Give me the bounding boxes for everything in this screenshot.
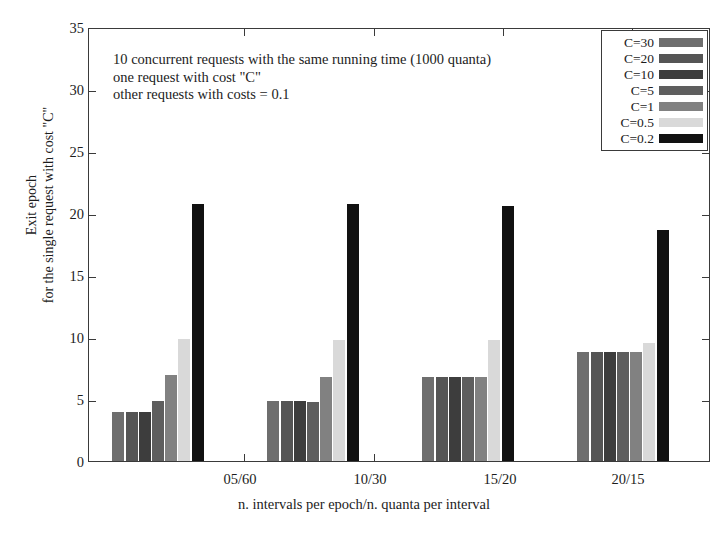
x-tick-label-2: 15/20 [460, 472, 540, 487]
legend-item-C0-2: C=0.2 [604, 131, 703, 146]
bar-05-60-C0-2 [192, 204, 205, 461]
x-tick-label-3: 20/15 [588, 472, 668, 487]
bar-15-20-C0-2 [502, 206, 515, 461]
legend-item-C1: C=1 [604, 99, 703, 114]
x-tick-label-1: 10/30 [330, 472, 410, 487]
bar-05-60-C30 [112, 412, 125, 461]
bar-10-30-C5 [307, 402, 320, 461]
bar-20-15-C1 [630, 352, 643, 461]
y-axis-title: Exit epoch for the single request with c… [23, 45, 57, 365]
plot-area: 10 concurrent requests with the same run… [88, 28, 710, 462]
bar-20-15-C10 [604, 352, 617, 461]
legend-label: C=1 [631, 100, 654, 114]
bar-15-20-C5 [462, 377, 475, 461]
legend-label: C=0.2 [621, 132, 655, 146]
x-tick-label-0: 05/60 [200, 472, 280, 487]
legend-label: C=30 [624, 36, 654, 50]
bar-05-60-C1 [165, 375, 178, 461]
legend-item-C30: C=30 [604, 35, 703, 50]
legend-item-C10: C=10 [604, 67, 703, 82]
legend-swatch [659, 102, 703, 111]
y-axis-title-line1: Exit epoch [23, 45, 40, 365]
bar-chart-figure: 0 5 10 15 20 25 30 35 Exit epoch for the… [0, 0, 728, 538]
legend-swatch [659, 134, 703, 143]
y-tick-label-0: 0 [44, 455, 84, 470]
legend-swatch [659, 54, 703, 63]
bar-10-30-C0-5 [333, 340, 346, 461]
legend-item-C20: C=20 [604, 51, 703, 66]
legend-swatch [659, 38, 703, 47]
bar-10-30-C0-2 [347, 204, 360, 461]
bar-05-60-C5 [152, 401, 165, 461]
bar-05-60-C20 [126, 412, 139, 461]
legend-label: C=0.5 [621, 116, 655, 130]
bar-15-20-C30 [422, 377, 435, 461]
y-tick-label-35: 35 [44, 21, 84, 36]
legend-swatch [659, 86, 703, 95]
legend-label: C=5 [631, 84, 654, 98]
bar-20-15-C30 [577, 352, 590, 461]
legend-item-C0-5: C=0.5 [604, 115, 703, 130]
bar-20-15-C0-5 [643, 343, 656, 461]
bar-05-60-C0-5 [178, 339, 191, 461]
legend-label: C=20 [624, 52, 654, 66]
bar-10-30-C1 [320, 377, 333, 461]
bar-15-20-C20 [436, 377, 449, 461]
legend-swatch [659, 118, 703, 127]
bar-10-30-C30 [267, 401, 280, 461]
bar-05-60-C10 [139, 412, 152, 461]
bar-20-15-C20 [591, 352, 604, 461]
legend-item-C5: C=5 [604, 83, 703, 98]
legend: C=30C=20C=10C=5C=1C=0.5C=0.2 [601, 30, 708, 151]
legend-swatch [659, 70, 703, 79]
bar-20-15-C5 [617, 352, 630, 461]
y-axis-title-line2: for the single request with cost "C" [40, 45, 57, 365]
bar-15-20-C0-5 [488, 340, 501, 461]
bar-20-15-C0-2 [657, 230, 670, 461]
bar-10-30-C20 [281, 401, 294, 461]
bar-15-20-C10 [449, 377, 462, 461]
x-axis-title: n. intervals per epoch/n. quanta per int… [0, 496, 728, 513]
legend-label: C=10 [624, 68, 654, 82]
y-tick-label-5: 5 [44, 393, 84, 408]
bar-15-20-C1 [475, 377, 488, 461]
bar-10-30-C10 [294, 401, 307, 461]
